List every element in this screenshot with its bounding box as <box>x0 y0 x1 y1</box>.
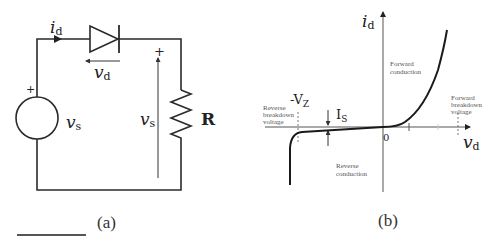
saturation-current-label: IS <box>336 107 347 124</box>
voltage-source-symbol <box>16 97 58 139</box>
resistor-label: R <box>201 109 216 129</box>
source-plus-sign: + <box>26 83 35 96</box>
load-voltage-label: vs <box>140 109 156 130</box>
current-label: id <box>50 17 62 38</box>
zener-voltage-label: -VZ <box>290 92 309 109</box>
circuit-diagram: id vd + vs + vs R <box>16 17 216 190</box>
source-voltage-label: vs <box>66 112 82 133</box>
caption-a: (a) <box>97 213 116 232</box>
decorative-underline <box>17 234 86 236</box>
resistor-symbol <box>37 90 191 190</box>
diagram-canvas: id vd + vs + vs R id vd 0 -VZ IS Forward… <box>0 0 497 242</box>
y-axis-label: id <box>362 11 374 32</box>
origin-label: 0 <box>383 132 389 143</box>
wire-top-left <box>37 39 90 97</box>
forward-breakdown-label: Forward breakdown voltage <box>451 94 484 116</box>
load-plus-sign: + <box>154 44 165 59</box>
reverse-conduction-label: Reverse conduction <box>336 162 368 178</box>
diode-voltage-label: vd <box>94 62 111 83</box>
x-axis-label: vd <box>463 132 480 153</box>
caption-b: (b) <box>378 211 398 230</box>
reverse-breakdown-label: Reverse breakdown voltage <box>263 104 296 126</box>
forward-conduction-label: Forward conduction <box>390 60 422 76</box>
iv-curve <box>290 30 447 185</box>
diode-symbol <box>90 25 119 53</box>
iv-characteristic-plot: id vd 0 -VZ IS Forward conduction Revers… <box>263 11 484 192</box>
wire-top-right <box>118 39 181 90</box>
